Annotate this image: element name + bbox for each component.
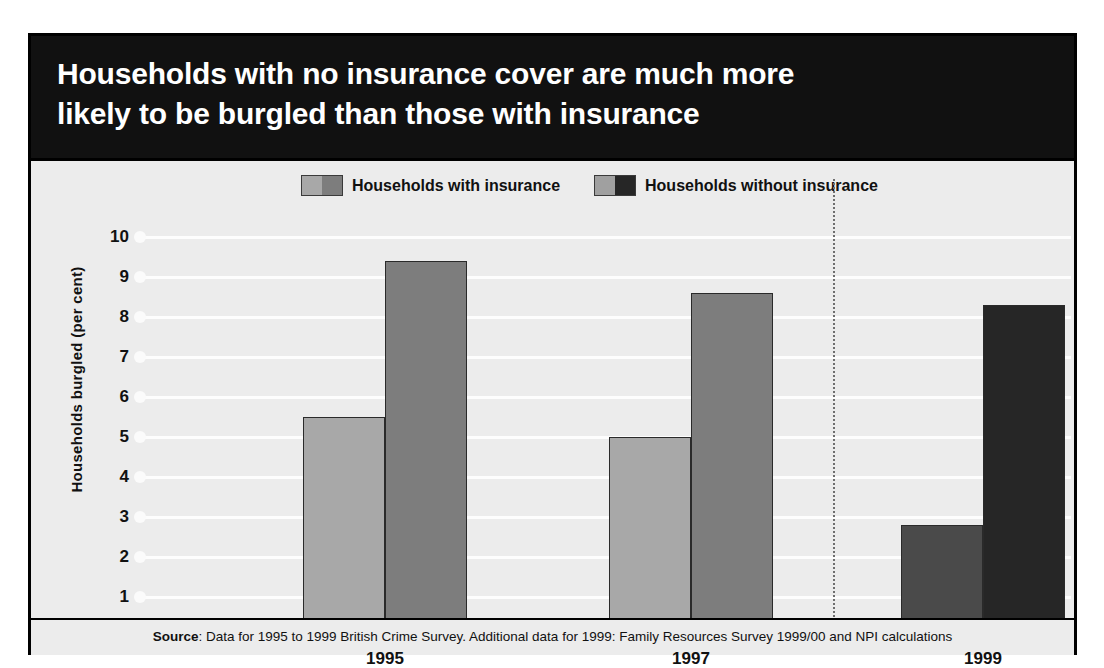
gridline-7	[143, 356, 1071, 359]
source-note: Source: Data for 1995 to 1999 British Cr…	[153, 629, 953, 644]
legend-swatch-left	[595, 176, 615, 195]
tick-knob-8	[134, 311, 146, 323]
chart-legend: Households with insuranceHouseholds with…	[301, 175, 878, 196]
bar-1995-series2	[385, 261, 467, 637]
vertical-dotted-divider	[833, 179, 835, 637]
legend-swatch-icon	[301, 175, 343, 196]
legend-swatch-right	[322, 176, 342, 195]
y-tick-label: 1	[95, 587, 129, 607]
legend-item-1: Households with insurance	[301, 175, 560, 196]
y-tick-label: 8	[95, 307, 129, 327]
legend-item-2: Households without insurance	[594, 175, 878, 196]
bar-1995-series1	[303, 417, 385, 637]
y-tick-label: 6	[95, 387, 129, 407]
source-bar: Source: Data for 1995 to 1999 British Cr…	[31, 618, 1074, 652]
y-tick-label: 2	[95, 547, 129, 567]
gridline-8	[143, 316, 1071, 319]
title-banner: Households with no insurance cover are m…	[31, 36, 1074, 158]
tick-knob-4	[134, 471, 146, 483]
gridline-3	[143, 516, 1071, 519]
bar-1999-series2	[983, 305, 1065, 637]
legend-swatch-left	[302, 176, 322, 195]
y-tick-label: 4	[95, 467, 129, 487]
gridline-4	[143, 476, 1071, 479]
plot-panel: Households burgled (per cent) 1098765432…	[31, 158, 1074, 655]
gridline-10	[143, 236, 1071, 239]
y-tick-label: 3	[95, 507, 129, 527]
legend-swatch-icon	[594, 175, 636, 196]
y-axis-tick-labels: 109876543210	[89, 237, 129, 637]
tick-knob-5	[134, 431, 146, 443]
gridline-6	[143, 396, 1071, 399]
legend-swatch-right	[615, 176, 635, 195]
y-axis-title: Households burgled (per cent)	[68, 215, 85, 545]
chart-figure: Households with no insurance cover are m…	[28, 33, 1077, 655]
legend-label: Households with insurance	[352, 177, 560, 195]
tick-knob-1	[134, 591, 146, 603]
tick-knob-3	[134, 511, 146, 523]
plot-area: 199519971999	[143, 237, 1071, 637]
chart-title: Households with no insurance cover are m…	[57, 54, 1037, 134]
tick-knob-7	[134, 351, 146, 363]
y-tick-label: 9	[95, 267, 129, 287]
y-tick-label: 10	[95, 227, 129, 247]
legend-label: Households without insurance	[645, 177, 878, 195]
tick-knob-2	[134, 551, 146, 563]
y-tick-label: 7	[95, 347, 129, 367]
tick-knob-6	[134, 391, 146, 403]
bar-1997-series1	[609, 437, 691, 637]
gridline-9	[143, 276, 1071, 279]
tick-knob-9	[134, 271, 146, 283]
source-prefix: Source	[153, 629, 199, 644]
tick-knob-10	[134, 231, 146, 243]
bar-1997-series2	[691, 293, 773, 637]
gridline-5	[143, 436, 1071, 439]
y-tick-label: 5	[95, 427, 129, 447]
source-body: : Data for 1995 to 1999 British Crime Su…	[198, 629, 952, 644]
